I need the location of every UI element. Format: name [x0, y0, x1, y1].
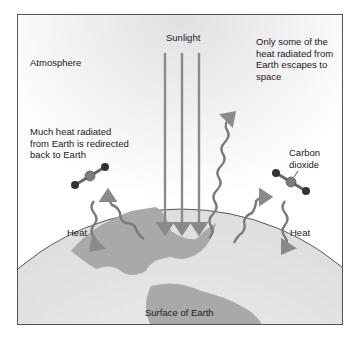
label-surface-of-earth: Surface of Earth — [145, 307, 214, 319]
label-atmosphere: Atmosphere — [30, 57, 81, 69]
label-carbon-dioxide: Carbon dioxide — [289, 147, 320, 170]
label-escape-note: Only some of the heat radiated from Eart… — [256, 36, 333, 82]
label-heat-left: Heat — [67, 227, 87, 239]
label-redirect-note: Much heat radiated from Earth is redirec… — [30, 126, 129, 161]
label-heat-right: Heat — [290, 227, 310, 239]
greenhouse-diagram: Atmosphere Sunlight Only some of the hea… — [17, 14, 343, 325]
label-sunlight: Sunlight — [166, 32, 200, 44]
